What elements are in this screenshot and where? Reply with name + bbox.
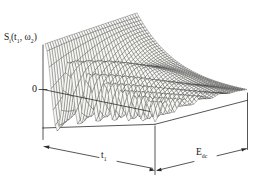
label-part: dc (202, 153, 208, 159)
mesh-surface-figure: Si(t1, ω2) 0 t1 Edc (0, 0, 261, 184)
label-part: , ω (20, 32, 31, 42)
edc-axis-label: Edc (196, 147, 207, 159)
dimension-arrowhead (44, 146, 50, 149)
dimension-arrowhead (241, 148, 247, 151)
mesh-surface (45, 13, 247, 131)
label-part: ) (34, 32, 37, 42)
t1-axis-label: t1 (101, 150, 107, 162)
dimension-arrowhead (156, 168, 162, 171)
dimension-lines (44, 146, 247, 172)
surface-plot (0, 0, 261, 184)
signal-axis-label: Si(t1, ω2) (4, 32, 37, 44)
label-part: 1 (104, 156, 107, 162)
zero-tick-label: 0 (32, 83, 37, 94)
